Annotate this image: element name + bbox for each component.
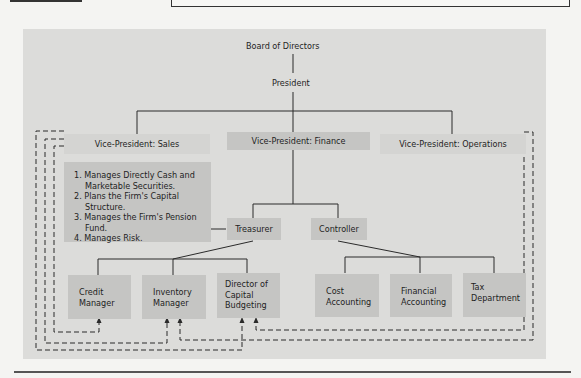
- duty-item: 1. Manages Directly Cash and Marketable …: [74, 170, 211, 191]
- node-cost-accounting: Cost Accounting: [315, 274, 379, 317]
- capital-budgeting-line1: Director of: [225, 279, 280, 290]
- capital-budgeting-line2: Capital: [225, 290, 280, 301]
- tax-department-line2: Department: [471, 293, 526, 304]
- duty-item: 3. Manages the Firm's Pension Fund.: [74, 212, 211, 233]
- vp-operations-label: Vice-President: Operations: [399, 139, 507, 150]
- treasurer-duties-box: 1. Manages Directly Cash and Marketable …: [64, 162, 211, 242]
- node-vp-sales: Vice-President: Sales: [64, 134, 210, 154]
- cost-accounting-line1: Cost: [326, 286, 379, 297]
- node-president: President: [272, 78, 310, 88]
- vp-finance-label: Vice-President: Finance: [252, 136, 346, 147]
- node-vp-finance: Vice-President: Finance: [227, 132, 370, 150]
- credit-manager-line2: Manager: [79, 298, 131, 309]
- node-tax-department: Tax Department: [463, 273, 526, 317]
- duty-item: 2. Plans the Firm's Capital Structure.: [74, 191, 211, 212]
- capital-budgeting-line3: Budgeting: [225, 300, 280, 311]
- controller-label: Controller: [319, 224, 359, 235]
- cost-accounting-line2: Accounting: [326, 297, 379, 308]
- bottom-rule: [14, 371, 571, 373]
- duty-item: 4. Manages Risk.: [74, 233, 211, 244]
- node-controller: Controller: [311, 218, 367, 240]
- inventory-manager-line1: Inventory: [153, 287, 206, 298]
- duties-list: 1. Manages Directly Cash and Marketable …: [74, 170, 211, 244]
- financial-accounting-line2: Accounting: [401, 297, 452, 308]
- inventory-manager-line2: Manager: [153, 298, 206, 309]
- credit-manager-line1: Credit: [79, 287, 131, 298]
- node-board-of-directors: Board of Directors: [246, 41, 319, 51]
- node-credit-manager: Credit Manager: [68, 275, 131, 319]
- node-vp-operations: Vice-President: Operations: [380, 134, 526, 154]
- financial-accounting-line1: Financial: [401, 286, 452, 297]
- node-treasurer: Treasurer: [227, 218, 281, 240]
- node-financial-accounting: Financial Accounting: [390, 274, 452, 317]
- vp-sales-label: Vice-President: Sales: [95, 139, 180, 150]
- node-inventory-manager: Inventory Manager: [142, 275, 206, 319]
- tax-department-line1: Tax: [471, 282, 526, 293]
- treasurer-label: Treasurer: [235, 224, 273, 235]
- node-director-capital-budgeting: Director of Capital Budgeting: [217, 273, 280, 318]
